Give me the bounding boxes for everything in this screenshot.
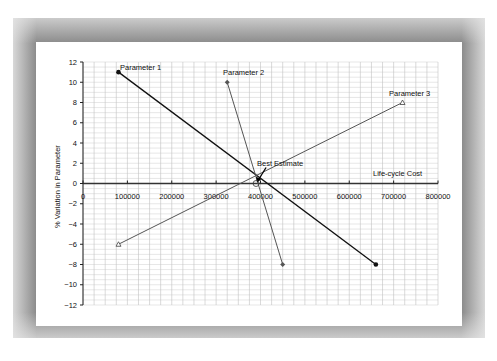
- label-parameter-1: Parameter 1: [120, 63, 161, 72]
- x-axis-title: Life-cycle Cost: [373, 169, 423, 178]
- y-tick-label: −12: [64, 301, 77, 310]
- y-axis-title: % Variation in Parameter: [53, 145, 62, 228]
- y-tick-label: 2: [73, 159, 77, 168]
- y-tick-label: −4: [68, 220, 77, 229]
- x-tick-label: 500000: [292, 192, 317, 201]
- x-tick-label: 100000: [115, 192, 140, 201]
- y-tick-label: −8: [68, 260, 77, 269]
- x-tick-label: 800000: [425, 192, 450, 201]
- y-tick-label: −6: [68, 240, 77, 249]
- y-tick-label: −2: [68, 199, 77, 208]
- y-tick-label: −10: [64, 280, 77, 289]
- data-point: [374, 262, 379, 267]
- y-tick-label: 6: [73, 118, 77, 127]
- x-tick-label: 200000: [159, 192, 184, 201]
- sensitivity-chart: 121086420−2−4−6−8−10−1201000002000003000…: [0, 0, 497, 361]
- x-tick-label: 0: [81, 192, 85, 201]
- data-point: [116, 242, 121, 247]
- y-tick-label: 4: [73, 139, 77, 148]
- label-best-estimate: Best Estimate: [257, 159, 303, 168]
- x-tick-label: 700000: [381, 192, 406, 201]
- y-tick-label: 10: [69, 78, 77, 87]
- data-point: [225, 80, 230, 85]
- y-tick-label: 12: [69, 58, 77, 67]
- label-parameter-2: Parameter 2: [223, 68, 264, 77]
- x-tick-label: 600000: [337, 192, 362, 201]
- data-point: [280, 262, 285, 267]
- label-parameter-3: Parameter 3: [389, 89, 430, 98]
- y-tick-label: 0: [73, 179, 77, 188]
- data-point: [400, 100, 405, 105]
- y-tick-label: 8: [73, 98, 77, 107]
